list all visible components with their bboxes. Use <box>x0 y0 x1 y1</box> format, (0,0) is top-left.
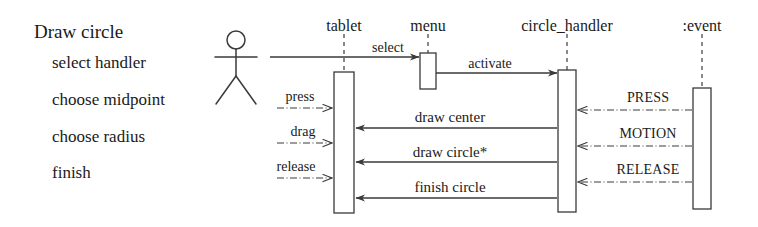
message-label-finish_circle: finish circle <box>414 180 485 195</box>
lifeline-label-circle_handler: circle_handler <box>521 18 613 34</box>
lifeline-label-tablet: tablet <box>326 18 362 34</box>
lifeline-label-menu: menu <box>410 18 446 34</box>
step-label-0: Draw circle <box>34 22 123 41</box>
message-label-press_event: PRESS <box>627 91 669 105</box>
step-label-1: select handler <box>52 54 146 71</box>
step-label-4: finish <box>52 164 91 181</box>
lifeline-label-event: :event <box>682 18 721 34</box>
message-label-motion_event: MOTION <box>619 127 676 141</box>
message-label-drag: drag <box>291 125 316 139</box>
step-label-2: choose midpoint <box>52 91 165 108</box>
message-label-release_event: RELEASE <box>617 163 680 177</box>
message-label-select: select <box>372 41 404 55</box>
message-label-draw_center: draw center <box>415 110 485 125</box>
message-label-activate: activate <box>468 57 512 71</box>
actor-figure <box>215 31 257 104</box>
step-label-3: choose radius <box>52 128 145 145</box>
message-label-release: release <box>277 160 316 174</box>
sequence-diagram-canvas: Draw circleselect handlerchoose midpoint… <box>0 0 758 227</box>
lifelines-layer <box>334 34 711 213</box>
message-label-press: press <box>286 90 315 104</box>
message-label-draw_circle: draw circle* <box>413 145 488 160</box>
